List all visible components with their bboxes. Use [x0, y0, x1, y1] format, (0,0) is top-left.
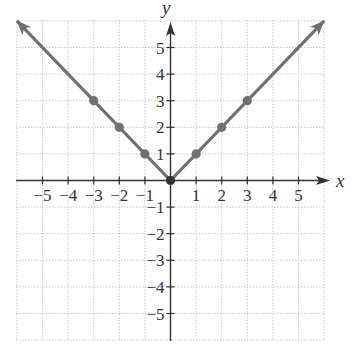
x-tick-label: −2: [110, 186, 128, 205]
y-tick-label: −1: [146, 198, 164, 217]
x-tick-label: 3: [243, 186, 252, 205]
y-tick-label: −3: [146, 251, 164, 270]
x-tick-label: −5: [33, 186, 51, 205]
y-axis-label: y: [160, 0, 171, 18]
x-tick-label: 4: [269, 186, 278, 205]
y-tick-label: 1: [156, 145, 165, 164]
x-tick-label: −3: [85, 186, 103, 205]
data-point: [217, 123, 226, 132]
x-tick-label: 1: [192, 186, 201, 205]
y-tick-label: −2: [146, 225, 164, 244]
x-tick-label: −4: [59, 186, 78, 205]
y-tick-label: 4: [156, 65, 165, 84]
y-tick-label: −5: [146, 305, 164, 324]
y-tick-label: 2: [156, 118, 165, 137]
data-point: [192, 149, 201, 158]
x-axis-label: x: [335, 170, 345, 191]
x-tick-label: 5: [294, 186, 303, 205]
data-point: [243, 96, 252, 105]
x-tick-label: 2: [217, 186, 226, 205]
data-point: [166, 176, 175, 185]
data-point: [140, 149, 149, 158]
data-point: [115, 123, 124, 132]
y-tick-label: −4: [146, 278, 165, 297]
y-tick-label: 3: [156, 92, 165, 111]
graph: −5−4−3−2−112345−5−4−3−2−112345 x y: [0, 0, 355, 356]
y-tick-label: 5: [156, 39, 165, 58]
data-point: [89, 96, 98, 105]
